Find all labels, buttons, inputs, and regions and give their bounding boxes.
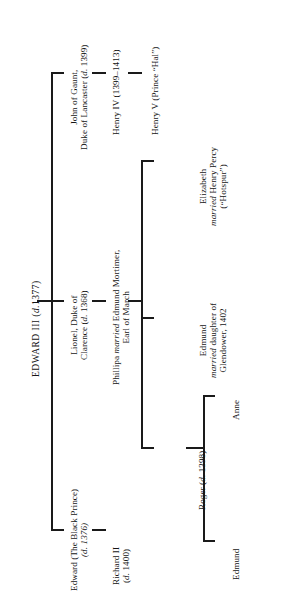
john-of-gaunt-line-1: John of Gaunt, bbox=[69, 45, 79, 151]
node-edward-iii: EDWARD III (d.1377) bbox=[31, 280, 42, 377]
spine-mortimer-lower bbox=[141, 300, 143, 448]
node-edmund-mortimer-5: Edmund bbox=[231, 549, 241, 580]
arm-edward-black-prince bbox=[51, 529, 64, 531]
edmund-glendower-line-3: Glendower, 1402 bbox=[218, 303, 228, 378]
tick-black-prince-to-richard-ii bbox=[92, 529, 106, 531]
arm-roger bbox=[141, 447, 154, 449]
node-phillipa-mortimer: Phillipa married Edmund Mortimer, Earl o… bbox=[111, 250, 131, 385]
node-john-of-gaunt: John of Gaunt, Duke of Lancaster (d. 139… bbox=[69, 45, 89, 151]
elizabeth-line-3: (“Hotspur”) bbox=[218, 147, 228, 226]
edmund-glendower-line-1: Edmund bbox=[198, 303, 208, 378]
henry-v-label: Henry V (Prince “Hal”) bbox=[150, 47, 160, 135]
elizabeth-line-1: Elizabeth bbox=[198, 147, 208, 226]
node-richard-ii: Richard II (d. 1400) bbox=[111, 547, 131, 585]
arm-edmund-mortimer bbox=[141, 317, 154, 319]
edmund-glendower-line-2: married daughter of bbox=[208, 303, 218, 378]
arm-elizabeth bbox=[141, 160, 154, 162]
node-henry-v: Henry V (Prince “Hal”) bbox=[150, 47, 160, 135]
arm-edmund-5 bbox=[203, 540, 215, 542]
genealogy-chart: EDWARD III (d.1377) Edward (The Black Pr… bbox=[0, 0, 297, 602]
node-roger-mortimer: Roger (d. 1398) bbox=[197, 451, 207, 510]
lionel-line-2: Clarence (d. 1368) bbox=[79, 290, 89, 360]
anne-label: Anne bbox=[231, 400, 241, 420]
arm-lionel-clarence bbox=[51, 300, 64, 302]
richard-ii-line-1: Richard II bbox=[111, 547, 121, 585]
tick-john-to-henry-iv bbox=[92, 72, 106, 74]
elizabeth-line-2: married Henry Percy bbox=[208, 147, 218, 226]
tick-lionel-to-phillipa bbox=[92, 300, 106, 302]
lionel-line-1: Lionel, Duke of bbox=[69, 290, 79, 360]
black-prince-line-2: (d. 1376) bbox=[79, 489, 89, 591]
john-of-gaunt-line-2: Duke of Lancaster (d. 1399) bbox=[79, 45, 89, 151]
henry-iv-label: Henry IV (1399–1413) bbox=[111, 49, 121, 135]
phillipa-line-2: Earl of March bbox=[121, 250, 131, 385]
node-elizabeth-percy: Elizabeth married Henry Percy (“Hotspur”… bbox=[198, 147, 229, 226]
node-anne-mortimer: Anne bbox=[231, 400, 241, 420]
tick-henry-iv-to-henry-v bbox=[128, 72, 142, 74]
node-henry-iv: Henry IV (1399–1413) bbox=[111, 49, 121, 135]
black-prince-line-1: Edward (The Black Prince) bbox=[69, 489, 79, 591]
roger-label: Roger (d. 1398) bbox=[197, 451, 207, 510]
node-edward-black-prince: Edward (The Black Prince) (d. 1376) bbox=[69, 489, 89, 591]
richard-ii-line-2: (d. 1400) bbox=[121, 547, 131, 585]
arm-john-of-gaunt bbox=[51, 72, 64, 74]
arm-anne bbox=[203, 395, 215, 397]
edmund-5-label: Edmund bbox=[231, 549, 241, 580]
node-lionel-clarence: Lionel, Duke of Clarence (d. 1368) bbox=[69, 290, 89, 360]
edward-iii-label: EDWARD III (d.1377) bbox=[31, 280, 42, 377]
phillipa-line-1: Phillipa married Edmund Mortimer, bbox=[111, 250, 121, 385]
stem-roger bbox=[186, 447, 204, 449]
spine-mortimer bbox=[141, 160, 143, 318]
node-edmund-glendower: Edmund married daughter of Glendower, 14… bbox=[198, 303, 229, 378]
